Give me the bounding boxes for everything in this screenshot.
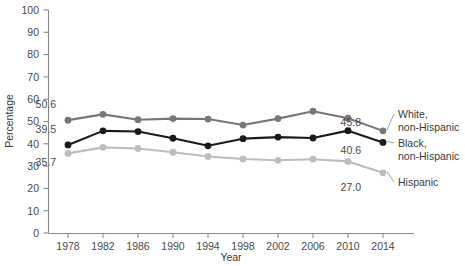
series-line <box>68 131 383 146</box>
x-tick-label: 2006 <box>301 240 325 252</box>
data-point <box>380 127 387 134</box>
series-black-non-hispanic <box>65 127 387 149</box>
legend-label: Black, <box>398 137 427 149</box>
chart-legend: White,non-HispanicBlack,non-HispanicHisp… <box>387 108 459 188</box>
y-axis-title: Percentage <box>3 94 15 148</box>
legend-leader-line <box>387 114 394 130</box>
x-tick-label: 1978 <box>56 240 80 252</box>
series-line <box>68 111 383 131</box>
y-tick-label: 20 <box>27 182 39 194</box>
series-line <box>68 147 383 172</box>
data-point <box>65 117 72 124</box>
x-tick-label: 2002 <box>266 240 290 252</box>
legend-label: non-Hispanic <box>398 150 459 162</box>
series-layer <box>65 108 387 176</box>
data-point <box>275 157 282 164</box>
data-point <box>170 135 177 142</box>
data-point <box>345 127 352 134</box>
data-point <box>100 127 107 134</box>
data-point <box>100 144 107 151</box>
y-tick-label: 80 <box>27 48 39 60</box>
data-point <box>135 145 142 152</box>
x-tick-label: 1990 <box>161 240 185 252</box>
data-point <box>135 116 142 123</box>
start-value-label: 35.7 <box>36 156 57 168</box>
y-tick-label: 40 <box>27 138 39 150</box>
data-point <box>275 115 282 122</box>
x-axis: 1978198219861990199419982002200620102014… <box>49 234 415 264</box>
chart-svg: 0102030405060708090100 Percentage 197819… <box>0 0 465 266</box>
data-point <box>310 108 317 115</box>
x-tick-label: 1982 <box>91 240 115 252</box>
data-point <box>240 122 247 129</box>
end-value-label: 45.8 <box>341 116 362 128</box>
data-point <box>310 156 317 163</box>
y-tick-label: 70 <box>27 71 39 83</box>
data-point <box>345 158 352 165</box>
x-axis-title: Year <box>220 251 242 263</box>
data-point <box>240 156 247 163</box>
y-tick-label: 90 <box>27 26 39 38</box>
legend-label: Hispanic <box>398 176 438 188</box>
start-value-label: 50.6 <box>36 98 57 110</box>
data-point <box>170 149 177 156</box>
legend-leader-line <box>387 141 394 143</box>
data-point <box>205 153 212 160</box>
data-point <box>275 134 282 141</box>
end-value-label: 27.0 <box>341 181 362 193</box>
data-point <box>310 135 317 142</box>
data-point <box>205 142 212 149</box>
series-hispanic <box>65 144 387 176</box>
y-tick-label: 100 <box>21 4 39 16</box>
data-point <box>170 115 177 122</box>
y-axis-ticks <box>44 10 49 233</box>
line-chart: 0102030405060708090100 Percentage 197819… <box>0 0 465 266</box>
x-axis-ticks <box>68 234 383 239</box>
x-tick-label: 2010 <box>336 240 360 252</box>
data-point <box>380 169 387 176</box>
data-point <box>65 150 72 157</box>
y-axis: 0102030405060708090100 Percentage <box>3 4 49 239</box>
data-point <box>100 111 107 118</box>
x-tick-label: 2014 <box>371 240 395 252</box>
y-axis-tick-labels: 0102030405060708090100 <box>21 4 39 239</box>
data-point <box>380 139 387 146</box>
legend-label: non-Hispanic <box>398 121 459 133</box>
data-point <box>205 116 212 123</box>
data-point <box>240 135 247 142</box>
legend-leader-line <box>387 172 394 182</box>
data-point <box>135 128 142 135</box>
end-value-label: 40.6 <box>341 144 362 156</box>
y-tick-label: 0 <box>33 227 39 239</box>
start-value-label: 39.5 <box>36 123 57 135</box>
y-tick-label: 10 <box>27 205 39 217</box>
x-tick-label: 1994 <box>196 240 220 252</box>
data-point <box>65 142 72 149</box>
x-tick-label: 1986 <box>126 240 150 252</box>
legend-label: White, <box>398 108 428 120</box>
